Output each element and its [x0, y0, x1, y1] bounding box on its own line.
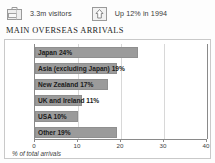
bar-label: Asia (excluding Japan) 19% [38, 63, 125, 74]
tick-label-0: 0 [32, 142, 35, 149]
bar-row[interactable]: USA 10% [35, 111, 207, 122]
bar-rows: Japan 24%Asia (excluding Japan) 19%New Z… [35, 44, 207, 139]
bar-label: New Zealand 17% [38, 79, 93, 90]
tick-label-30: 30 [160, 142, 167, 149]
stat-visitors-label: 3.3m visitors [30, 9, 72, 18]
bar-chart-panel: Japan 24%Asia (excluding Japan) 19%New Z… [4, 39, 211, 159]
plot-area: Japan 24%Asia (excluding Japan) 19%New Z… [34, 44, 207, 140]
tick-label-10: 10 [74, 142, 81, 149]
bar-label: UK and Ireland 11% [38, 95, 99, 106]
tick-label-20: 20 [117, 142, 124, 149]
suitcase-icon [5, 4, 24, 23]
gridline-40 [207, 44, 208, 139]
page-title: MAIN OVERSEAS ARRIVALS [6, 26, 124, 35]
x-axis-caption: % of total arrivals [12, 150, 61, 157]
stat-visitors: 3.3m visitors [5, 4, 72, 23]
bar-row[interactable]: Japan 24% [35, 47, 207, 58]
header-stats-row: 3.3m visitors Up 12% in 1994 [0, 0, 215, 26]
bar-row[interactable]: Asia (excluding Japan) 19% [35, 63, 207, 74]
tick-label-40: 40 [203, 142, 210, 149]
up-arrow-icon [90, 4, 109, 23]
bar-row[interactable]: New Zealand 17% [35, 79, 207, 90]
bar-label: Japan 24% [38, 47, 72, 58]
bar-label: Other 19% [38, 127, 71, 138]
x-axis: 010203040 [34, 140, 207, 150]
bar-row[interactable]: UK and Ireland 11% [35, 95, 207, 106]
bar-label: USA 10% [38, 111, 67, 122]
bar-row[interactable]: Other 19% [35, 127, 207, 138]
stat-growth-label: Up 12% in 1994 [115, 9, 168, 18]
stat-growth: Up 12% in 1994 [90, 4, 168, 23]
infographic-page: 3.3m visitors Up 12% in 1994 MAIN OVERSE… [0, 0, 215, 163]
